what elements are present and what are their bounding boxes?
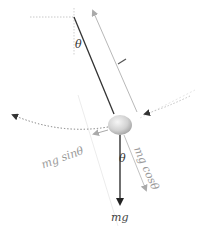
weight-label: mg (111, 212, 128, 223)
swing-arc-right (145, 96, 190, 114)
theta-label-bottom: θ (119, 153, 126, 164)
theta-label-top: θ (75, 39, 82, 50)
tangent-guide-line (78, 95, 118, 226)
length-tick (118, 59, 126, 64)
pendulum-bob (108, 115, 132, 135)
swing-arc-left (13, 115, 108, 129)
pendulum-diagram (0, 0, 201, 226)
length-label: l (129, 52, 132, 62)
tangential-component-arrow (94, 130, 108, 134)
tangent-guide-line-2 (140, 90, 195, 118)
pendulum-string (74, 17, 114, 114)
